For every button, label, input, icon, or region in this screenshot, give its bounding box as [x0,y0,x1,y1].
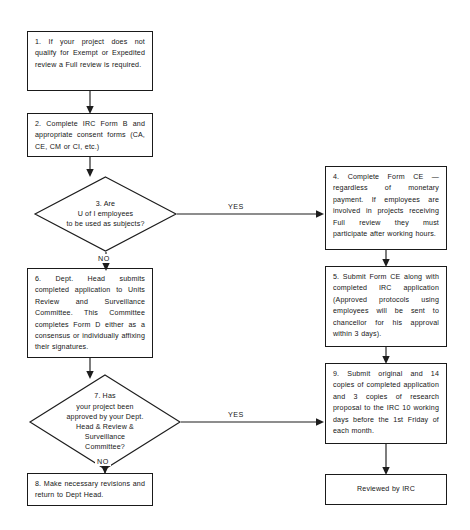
node-step-2-text: 2. Complete IRC Form B and appropriate c… [35,120,145,151]
node-step-8: 8. Make necessary revisions and return t… [27,473,153,506]
decision-7-outline [29,374,181,470]
edge-4-to-5 [380,250,392,268]
node-step-5-text: 5. Submit Form CE along with completed I… [333,273,439,338]
edge-3-no-arrow [100,262,112,272]
node-step-4: 4. Complete Form CE — regardless of mone… [325,166,447,250]
node-terminal-text: Reviewed by IRC [357,484,415,495]
node-step-9-text: 9. Submit original and 14 copies of comp… [333,370,439,435]
edge-7-no-arrow [99,465,111,475]
edge-label-7-yes: YES [226,410,246,419]
node-terminal-reviewed: Reviewed by IRC [325,474,447,505]
node-step-4-text: 4. Complete Form CE — regardless of mone… [333,173,439,238]
node-step-9: 9. Submit original and 14 copies of comp… [325,363,447,444]
flowchart-canvas: 1. If your project does not qualify for … [0,0,470,530]
node-step-2: 2. Complete IRC Form B and appropriate c… [27,113,153,157]
node-step-6: 6. Dept. Head submits completed applicat… [27,268,153,358]
node-step-6-text: 6. Dept. Head submits completed applicat… [35,275,145,351]
edge-1-to-2 [84,91,96,115]
node-step-5: 5. Submit Form CE along with completed I… [325,266,447,347]
edge-7-yes-to-9 [181,415,327,429]
edge-3-yes-to-4 [177,207,327,221]
node-decision-7: 7. Has your project been approved by you… [29,374,181,470]
edge-9-to-terminal [380,444,392,476]
node-decision-3: 3. Are U of I employees to be used as su… [34,176,177,252]
decision-3-outline [34,176,177,252]
edge-6-to-7 [84,358,96,380]
edge-label-3-yes: YES [226,202,246,211]
node-step-1: 1. If your project does not qualify for … [27,31,153,91]
edge-2-to-3 [84,157,96,178]
node-step-1-text: 1. If your project does not qualify for … [35,38,145,69]
node-step-8-text: 8. Make necessary revisions and return t… [35,480,145,499]
edge-5-to-9 [380,347,392,365]
